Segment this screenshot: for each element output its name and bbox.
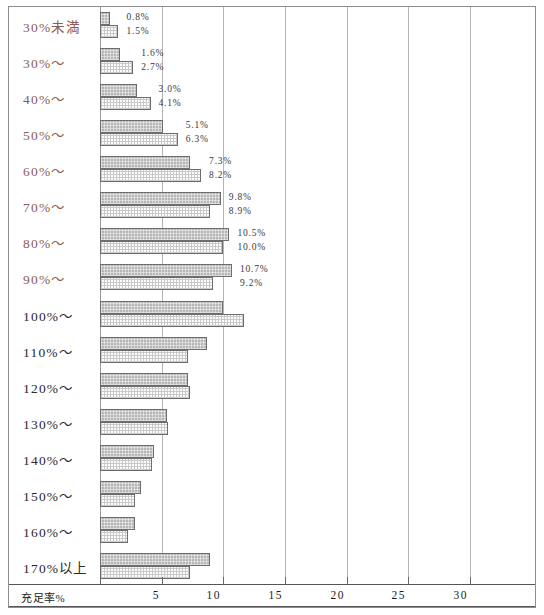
bar-series-b — [100, 386, 190, 399]
value-label-series-b: 8.2% — [209, 170, 232, 180]
chart-row: 110%～ — [9, 332, 535, 368]
bar-series-a — [100, 192, 221, 205]
bar-series-a — [100, 553, 210, 566]
x-tick-label-5: 5 — [153, 589, 160, 601]
chart-row: 90%～10.7%9.2% — [9, 259, 535, 295]
value-label-series-a: 0.8% — [126, 12, 149, 22]
bar-series-b — [100, 422, 168, 435]
tickmark-20 — [347, 577, 348, 584]
bar-series-a — [100, 481, 141, 494]
value-label-series-b: 1.5% — [126, 26, 149, 36]
chart-row: 140%～ — [9, 440, 535, 476]
value-label-series-a: 7.3% — [209, 156, 232, 166]
chart-row: 30%～1.6%2.7% — [9, 43, 535, 79]
tickmark-30 — [470, 577, 471, 584]
bar-series-a — [100, 120, 163, 133]
value-label-series-a: 1.6% — [141, 48, 164, 58]
tickmark-15 — [285, 577, 286, 584]
x-tick-label-15: 15 — [269, 589, 284, 601]
bar-series-b — [100, 205, 210, 218]
tickmark-10 — [223, 577, 224, 584]
value-label-series-a: 10.5% — [237, 228, 266, 238]
bar-series-b — [100, 566, 190, 579]
bar-group — [9, 476, 535, 512]
value-label-series-b: 4.1% — [159, 98, 182, 108]
chart-row: 170%以上 — [9, 548, 535, 584]
bar-group — [9, 404, 535, 440]
tickmark-5 — [162, 577, 163, 584]
x-tick-label-20: 20 — [331, 589, 346, 601]
bar-series-a — [100, 373, 188, 386]
bar-series-a — [100, 264, 232, 277]
chart-row: 100%～ — [9, 296, 535, 332]
bar-group — [9, 548, 535, 584]
chart-row: 160%～ — [9, 512, 535, 548]
bar-group — [9, 332, 535, 368]
value-label-series-a: 10.7% — [240, 264, 269, 274]
bar-group — [9, 368, 535, 404]
bar-group — [9, 43, 535, 79]
bar-series-b — [100, 458, 152, 471]
chart-root: 30%未満0.8%1.5%30%～1.6%2.7%40%～3.0%4.1%50%… — [0, 0, 544, 615]
bar-series-a — [100, 445, 154, 458]
bar-series-b — [100, 494, 135, 507]
x-axis-title: 充足率% — [21, 589, 65, 605]
x-tick-label-30: 30 — [454, 589, 469, 601]
plot-area: 30%未満0.8%1.5%30%～1.6%2.7%40%～3.0%4.1%50%… — [9, 7, 535, 584]
bar-series-b — [100, 350, 188, 363]
chart-row: 70%～9.8%8.9% — [9, 187, 535, 223]
chart-row: 150%～ — [9, 476, 535, 512]
chart-row: 50%～5.1%6.3% — [9, 115, 535, 151]
value-label-series-b: 6.3% — [186, 134, 209, 144]
bar-series-b — [100, 530, 128, 543]
bar-series-b — [100, 97, 151, 110]
bar-group — [9, 296, 535, 332]
bar-series-a — [100, 84, 137, 97]
bar-group — [9, 115, 535, 151]
value-label-series-a: 5.1% — [186, 120, 209, 130]
chart-row: 120%～ — [9, 368, 535, 404]
bar-series-a — [100, 12, 110, 25]
value-label-series-b: 10.0% — [237, 242, 266, 252]
chart-row: 80%～10.5%10.0% — [9, 223, 535, 259]
chart-row: 60%～7.3%8.2% — [9, 151, 535, 187]
bar-series-a — [100, 48, 120, 61]
x-axis-strip: 充足率% 51015202530 — [9, 584, 535, 607]
bar-series-a — [100, 156, 190, 169]
x-tick-label-10: 10 — [207, 589, 222, 601]
x-tick-label-25: 25 — [392, 589, 407, 601]
chart-row: 130%～ — [9, 404, 535, 440]
bar-group — [9, 187, 535, 223]
bar-group — [9, 259, 535, 295]
bar-series-b — [100, 169, 201, 182]
bar-group — [9, 151, 535, 187]
bar-series-b — [100, 61, 133, 74]
value-label-series-a: 3.0% — [159, 84, 182, 94]
value-label-series-a: 9.8% — [229, 192, 252, 202]
chart-row: 30%未満0.8%1.5% — [9, 7, 535, 43]
bar-series-a — [100, 409, 167, 422]
bar-group — [9, 79, 535, 115]
bar-series-a — [100, 517, 135, 530]
value-label-series-b: 9.2% — [240, 278, 263, 288]
value-label-series-b: 8.9% — [229, 206, 252, 216]
bar-series-b — [100, 133, 178, 146]
bar-series-b — [100, 25, 118, 38]
bar-series-a — [100, 301, 223, 314]
bar-series-b — [100, 241, 223, 254]
chart-row: 40%～3.0%4.1% — [9, 79, 535, 115]
bar-group — [9, 7, 535, 43]
bar-series-a — [100, 228, 229, 241]
bar-group — [9, 223, 535, 259]
value-label-series-b: 2.7% — [141, 62, 164, 72]
tickmark-25 — [408, 577, 409, 584]
bar-group — [9, 440, 535, 476]
bar-series-b — [100, 277, 213, 290]
bar-series-b — [100, 314, 244, 327]
bar-group — [9, 512, 535, 548]
bar-series-a — [100, 337, 207, 350]
tickmark-0 — [100, 577, 101, 584]
